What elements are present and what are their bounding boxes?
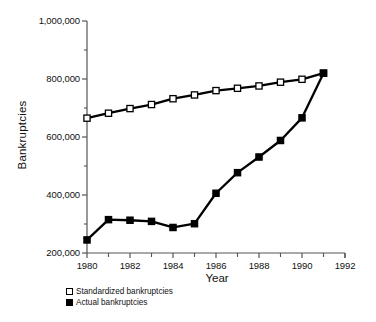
data-point-standardized[interactable]: [148, 101, 154, 107]
data-point-standardized[interactable]: [170, 96, 176, 102]
data-point-actual[interactable]: [84, 237, 90, 243]
x-axis-label: Year: [87, 272, 347, 284]
chart-legend: Standardized bankruptcies Actual bankrup…: [66, 286, 173, 308]
data-point-standardized[interactable]: [84, 115, 90, 121]
x-tick-label: 1980: [67, 260, 107, 271]
data-point-actual[interactable]: [299, 115, 305, 121]
x-tick-label: 1988: [239, 260, 279, 271]
y-tick-label: 600,000: [14, 131, 80, 142]
y-tick-label: 200,000: [14, 247, 80, 258]
data-point-actual[interactable]: [191, 221, 197, 227]
data-point-actual[interactable]: [277, 137, 283, 143]
x-tick-label: 1986: [196, 260, 236, 271]
data-point-actual[interactable]: [256, 154, 262, 160]
x-tick-label: 1982: [110, 260, 150, 271]
data-point-standardized[interactable]: [299, 76, 305, 82]
data-point-actual[interactable]: [148, 218, 154, 224]
x-tick-label: 1990: [282, 260, 322, 271]
data-point-standardized[interactable]: [277, 79, 283, 85]
filled-square-icon: [66, 299, 73, 306]
data-point-actual[interactable]: [234, 170, 240, 176]
data-point-actual[interactable]: [213, 190, 219, 196]
data-point-standardized[interactable]: [234, 85, 240, 91]
x-tick-label: 1992: [325, 260, 365, 271]
y-tick-label: 1,000,000: [14, 15, 80, 26]
legend-label: Standardized bankruptcies: [76, 286, 173, 297]
legend-item-standardized: Standardized bankruptcies: [66, 286, 173, 297]
data-point-standardized[interactable]: [105, 110, 111, 116]
data-point-actual[interactable]: [320, 70, 326, 76]
x-tick-label: 1984: [153, 260, 193, 271]
y-tick-label: 400,000: [14, 189, 80, 200]
data-point-actual[interactable]: [127, 217, 133, 223]
chart-figure: Bankruptcies 200,000400,000600,000800,00…: [0, 0, 376, 322]
series-line-actual: [87, 73, 324, 240]
series-line-standardized: [87, 73, 324, 118]
data-point-standardized[interactable]: [256, 83, 262, 89]
data-point-standardized[interactable]: [127, 105, 133, 111]
open-square-icon: [66, 288, 73, 295]
y-tick-label: 800,000: [14, 73, 80, 84]
data-point-standardized[interactable]: [191, 92, 197, 98]
data-point-standardized[interactable]: [213, 88, 219, 94]
legend-label: Actual bankruptcies: [76, 297, 147, 308]
data-point-actual[interactable]: [105, 217, 111, 223]
legend-item-actual: Actual bankruptcies: [66, 297, 173, 308]
data-point-actual[interactable]: [170, 224, 176, 230]
